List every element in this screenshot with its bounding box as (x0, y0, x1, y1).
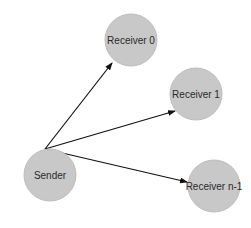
receiver-1-label: Receiver 1 (172, 89, 220, 100)
sender-label: Sender (34, 170, 67, 181)
node-receiver-1: Receiver 1 (170, 68, 222, 120)
node-receiver-n-1: Receiver n-1 (186, 160, 243, 212)
receiver-0-label: Receiver 0 (107, 35, 155, 46)
edge-sender-to-receiver-0 (45, 63, 112, 149)
node-receiver-0: Receiver 0 (105, 14, 157, 66)
broadcast-diagram: Sender Receiver 0 Receiver 1 Receiver n-… (0, 0, 251, 228)
node-sender: Sender (24, 149, 76, 201)
receiver-n-1-label: Receiver n-1 (186, 181, 243, 192)
edge-sender-to-receiver-1 (45, 111, 175, 149)
